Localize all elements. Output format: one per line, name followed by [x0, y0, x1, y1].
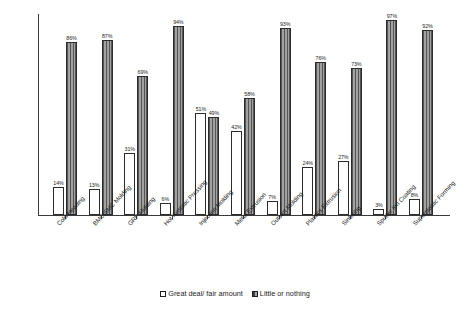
bar-value-label: 92%	[420, 23, 436, 29]
bar-little-or-nothing	[315, 62, 326, 215]
bar-value-label: 42%	[229, 124, 245, 130]
bar-little-or-nothing	[422, 30, 433, 215]
bar-little-or-nothing	[386, 20, 397, 215]
bar-great-deal	[302, 167, 313, 215]
bar-value-label: 27%	[335, 154, 351, 160]
bar-value-label: 24%	[300, 160, 316, 166]
white-square-icon	[160, 291, 166, 297]
bar-value-label: 6%	[157, 196, 173, 202]
legend-item-great-deal: Great deal/ fair amount	[160, 289, 243, 298]
bar-value-label: 31%	[122, 146, 138, 152]
bar-value-label: 69%	[135, 69, 151, 75]
bar-great-deal	[195, 113, 206, 216]
bar-value-label: 93%	[277, 21, 293, 27]
bar-little-or-nothing	[244, 98, 255, 215]
bar-little-or-nothing	[66, 42, 77, 215]
bar-value-label: 76%	[313, 55, 329, 61]
bar-value-label: 87%	[99, 33, 115, 39]
bar-great-deal	[89, 189, 100, 215]
bar-great-deal	[53, 187, 64, 215]
bar-chart: 14%86%13%87%31%69%6%94%51%49%42%58%7%93%…	[0, 0, 470, 311]
chart-legend: Great deal/ fair amount Little or nothin…	[0, 289, 470, 298]
bar-value-label: 94%	[170, 19, 186, 25]
bar-value-label: 49%	[206, 110, 222, 116]
hatched-square-icon	[252, 291, 258, 297]
bar-little-or-nothing	[102, 40, 113, 215]
bar-value-label: 58%	[242, 91, 258, 97]
bar-little-or-nothing	[280, 28, 291, 215]
bar-value-label: 86%	[64, 35, 80, 41]
bar-value-label: 13%	[86, 182, 102, 188]
bar-little-or-nothing	[351, 68, 362, 215]
bar-great-deal	[231, 131, 242, 215]
legend-label-great-deal: Great deal/ fair amount	[168, 289, 243, 298]
bar-value-label: 97%	[384, 13, 400, 19]
bar-little-or-nothing	[137, 76, 148, 215]
bar-value-label: 14%	[51, 180, 67, 186]
bar-little-or-nothing	[173, 26, 184, 215]
bar-value-label: 3%	[371, 202, 387, 208]
legend-label-little-or-nothing: Little or nothing	[260, 289, 310, 298]
legend-item-little-or-nothing: Little or nothing	[252, 289, 310, 298]
bar-value-label: 73%	[348, 61, 364, 67]
